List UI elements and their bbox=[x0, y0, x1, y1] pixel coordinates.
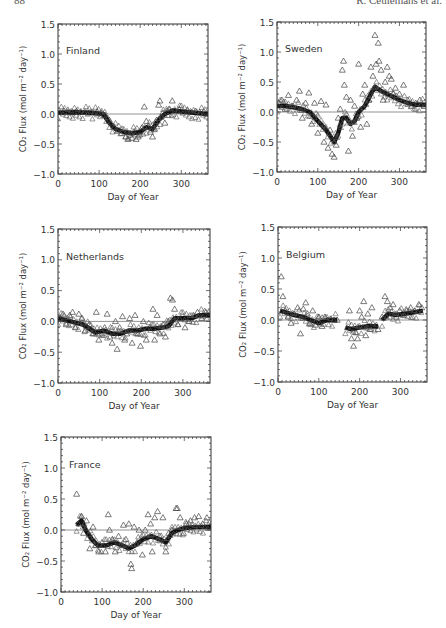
x-tick-label: 200 bbox=[135, 597, 152, 607]
y-axis-label: CO₂ Flux (mol m⁻² day⁻¹) bbox=[21, 461, 31, 568]
y-tick-label: −0.5 bbox=[33, 140, 55, 150]
panel-france: −1.0−0.50.00.51.01.50100200300Day of Yea… bbox=[21, 433, 213, 621]
x-tick-label: 200 bbox=[350, 177, 367, 187]
panel-title: France bbox=[69, 459, 101, 470]
y-tick-label: 1.0 bbox=[44, 464, 59, 474]
running-mean-line bbox=[277, 87, 426, 142]
panel-title: Netherlands bbox=[66, 251, 124, 262]
x-tick-label: 100 bbox=[91, 388, 108, 398]
y-axis-label: CO₂ Flux (mol m⁻² day⁻¹) bbox=[238, 251, 248, 358]
x-tick-label: 100 bbox=[309, 177, 326, 187]
y-tick-label: 0.0 bbox=[41, 110, 56, 120]
x-tick-label: 300 bbox=[176, 597, 193, 607]
x-axis-label: Day of Year bbox=[108, 401, 160, 411]
x-axis-label: Day of Year bbox=[110, 610, 162, 620]
y-tick-label: 0.0 bbox=[41, 317, 56, 327]
y-tick-label: 0.0 bbox=[261, 316, 276, 326]
x-tick-label: 100 bbox=[94, 597, 111, 607]
y-tick-label: 1.0 bbox=[41, 50, 56, 60]
y-tick-label: 1.0 bbox=[41, 255, 56, 265]
y-tick-label: 1.0 bbox=[261, 254, 276, 264]
y-tick-label: 0.5 bbox=[41, 80, 55, 90]
y-tick-label: 0.0 bbox=[44, 526, 59, 536]
y-tick-label: 1.5 bbox=[260, 18, 274, 28]
y-tick-label: 1.5 bbox=[41, 225, 55, 235]
y-tick-label: −0.5 bbox=[33, 348, 55, 358]
y-tick-label: 0.5 bbox=[260, 78, 274, 88]
figure-five-panel-co2-flux: −1.0−0.50.00.51.01.50100200300Day of Yea… bbox=[0, 0, 446, 628]
x-tick-label: 300 bbox=[173, 179, 190, 189]
panel-title: Finland bbox=[66, 45, 100, 56]
x-tick-label: 300 bbox=[391, 177, 408, 187]
y-tick-label: 0.5 bbox=[261, 285, 275, 295]
y-tick-label: −0.5 bbox=[36, 557, 58, 567]
x-axis-label: Day of Year bbox=[326, 190, 378, 200]
panel-title: Sweden bbox=[285, 43, 323, 54]
x-tick-label: 200 bbox=[132, 179, 149, 189]
y-tick-label: −0.5 bbox=[252, 138, 274, 148]
x-tick-label: 100 bbox=[91, 179, 108, 189]
y-tick-label: 1.5 bbox=[261, 223, 275, 233]
y-tick-label: −1.0 bbox=[33, 379, 55, 389]
x-tick-label: 0 bbox=[55, 388, 61, 398]
y-axis-label: CO₂ Flux (mol m⁻² day⁻¹) bbox=[18, 46, 28, 153]
y-tick-label: 0.0 bbox=[260, 108, 275, 118]
y-tick-label: 1.5 bbox=[41, 20, 55, 30]
y-tick-label: 1.0 bbox=[260, 48, 275, 58]
x-tick-label: 0 bbox=[275, 387, 281, 397]
x-tick-label: 300 bbox=[174, 388, 191, 398]
y-axis-label: CO₂ Flux (mol m⁻² day⁻¹) bbox=[18, 253, 28, 360]
x-tick-label: 200 bbox=[133, 388, 150, 398]
x-tick-label: 0 bbox=[58, 597, 64, 607]
y-tick-label: −1.0 bbox=[33, 170, 55, 180]
x-tick-label: 100 bbox=[310, 387, 327, 397]
y-tick-label: −1.0 bbox=[252, 168, 274, 178]
y-tick-label: 0.5 bbox=[44, 495, 58, 505]
y-tick-label: 1.5 bbox=[44, 433, 58, 443]
y-axis-label: CO₂ Flux (mol m⁻² day⁻¹) bbox=[237, 44, 247, 151]
x-tick-label: 0 bbox=[274, 177, 280, 187]
y-tick-label: −0.5 bbox=[253, 347, 275, 357]
x-axis-label: Day of Year bbox=[107, 192, 159, 202]
x-axis-label: Day of Year bbox=[327, 400, 379, 410]
panel-belgium: −1.0−0.50.00.51.01.50100200300Day of Yea… bbox=[238, 223, 427, 411]
panel-finland: −1.0−0.50.00.51.01.50100200300Day of Yea… bbox=[18, 20, 210, 203]
triangle-markers bbox=[278, 274, 424, 349]
y-tick-label: 0.5 bbox=[41, 286, 55, 296]
y-tick-label: −1.0 bbox=[36, 588, 58, 598]
x-tick-label: 300 bbox=[392, 387, 409, 397]
x-tick-label: 0 bbox=[55, 179, 61, 189]
y-tick-label: −1.0 bbox=[253, 378, 275, 388]
panel-netherlands: −1.0−0.50.00.51.01.50100200300Day of Yea… bbox=[18, 225, 212, 412]
panel-title: Belgium bbox=[286, 249, 325, 260]
panel-sweden: −1.0−0.50.00.51.01.50100200300Day of Yea… bbox=[237, 18, 427, 201]
x-tick-label: 200 bbox=[351, 387, 368, 397]
